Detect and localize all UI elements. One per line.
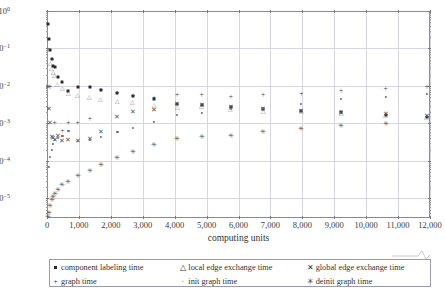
y-minor-tick — [46, 17, 48, 18]
y-minor-tick — [46, 31, 48, 32]
x-tick — [175, 216, 176, 219]
y-minor-tick — [429, 202, 431, 203]
legend-item: ·init graph time — [177, 277, 304, 286]
gridline-horizontal — [47, 161, 430, 162]
y-minor-tick — [46, 138, 48, 139]
y-minor-tick — [429, 210, 431, 211]
y-minor-tick — [429, 94, 431, 95]
y-minor-tick — [46, 37, 48, 38]
y-minor-tick — [429, 54, 431, 55]
y-minor-tick — [46, 132, 48, 133]
y-minor-tick — [46, 163, 48, 164]
y-minor-tick — [46, 75, 48, 76]
y-minor-tick — [429, 181, 431, 182]
y-minor-tick — [429, 57, 431, 58]
y-minor-tick — [46, 57, 48, 58]
y-minor-tick — [429, 106, 431, 107]
legend-row: component labeling time△local edge excha… — [50, 260, 430, 274]
y-minor-tick — [429, 132, 431, 133]
gridline-horizontal — [47, 86, 430, 87]
y-minor-tick — [46, 187, 48, 188]
y-minor-tick — [46, 200, 48, 201]
y-minor-tick — [429, 52, 431, 53]
gridline-horizontal — [47, 48, 430, 49]
y-minor-tick — [46, 129, 48, 130]
legend-item: ✳deinit graph time — [305, 277, 430, 286]
y-minor-tick — [429, 90, 431, 91]
y-minor-tick — [429, 127, 431, 128]
x-tick-label: 2,000 — [101, 220, 120, 230]
x-tick — [143, 10, 144, 13]
y-minor-tick — [429, 150, 431, 151]
x-tick — [270, 10, 271, 13]
y-minor-tick — [46, 19, 48, 20]
x-axis-title: computing units — [47, 233, 430, 243]
gridline-vertical — [239, 11, 240, 218]
y-minor-tick — [46, 52, 48, 53]
y-minor-tick — [46, 54, 48, 55]
y-minor-tick — [429, 17, 431, 18]
legend-label: local edge exchange time — [188, 263, 272, 272]
y-tick-label: 10−4 — [0, 155, 10, 166]
legend-label: deinit graph time — [316, 277, 373, 286]
y-minor-tick — [429, 143, 431, 144]
y-minor-tick — [429, 213, 431, 214]
y-minor-tick — [429, 101, 431, 102]
y-minor-tick — [429, 129, 431, 130]
gridline-vertical — [175, 11, 176, 218]
y-minor-tick — [429, 204, 431, 205]
gridline-vertical — [270, 11, 271, 218]
y-minor-tick — [46, 88, 48, 89]
y-tick-label: 10−3 — [0, 118, 10, 129]
y-minor-tick — [46, 176, 48, 177]
y-minor-tick — [46, 60, 48, 61]
y-tick-label: 10−2 — [0, 81, 10, 92]
y-minor-tick — [429, 97, 431, 98]
x-tick — [79, 216, 80, 219]
x-tick — [47, 216, 48, 219]
figure: △△△△△△△△△△△△△△△△△△△△△✕✕✕✕✕✕✕✕✕✕✕✕✕✕✕✕✕✕✕… — [0, 0, 445, 290]
y-minor-tick — [429, 165, 431, 166]
legend-marker-square-icon — [50, 263, 61, 272]
y-minor-tick — [429, 50, 431, 51]
x-tick-label: 11,000 — [387, 220, 410, 230]
y-minor-tick — [429, 60, 431, 61]
y-minor-tick — [429, 13, 431, 14]
legend: component labeling time△local edge excha… — [49, 259, 431, 287]
y-minor-tick — [46, 63, 48, 64]
legend-marker-cross-icon: ✕ — [305, 263, 316, 272]
y-minor-tick — [46, 68, 48, 69]
x-tick — [398, 10, 399, 13]
x-tick-label: 12,000 — [418, 220, 441, 230]
y-minor-tick — [46, 172, 48, 173]
x-tick — [207, 10, 208, 13]
y-minor-tick — [429, 176, 431, 177]
x-tick — [175, 10, 176, 13]
y-minor-tick — [46, 127, 48, 128]
gridline-vertical — [334, 11, 335, 218]
legend-marker-star-icon: ✳ — [305, 277, 316, 286]
y-tick-label: 10−1 — [0, 43, 10, 54]
x-tick-label: 10,000 — [354, 220, 377, 230]
y-minor-tick — [46, 125, 48, 126]
y-minor-tick — [46, 135, 48, 136]
y-minor-tick — [429, 75, 431, 76]
legend-label: global edge exchange time — [316, 263, 405, 272]
gridline-horizontal — [47, 123, 430, 124]
y-minor-tick — [46, 101, 48, 102]
x-tick — [398, 216, 399, 219]
legend-label: init graph time — [188, 277, 237, 286]
y-minor-tick — [46, 90, 48, 91]
x-tick — [334, 216, 335, 219]
x-tick — [270, 216, 271, 219]
legend-label: graph time — [61, 277, 97, 286]
y-minor-tick — [46, 112, 48, 113]
legend-row: +graph time·init graph time✳deinit graph… — [50, 274, 430, 288]
x-tick-label: 6,000 — [229, 220, 248, 230]
x-tick-label: 4,000 — [165, 220, 184, 230]
gridline-vertical — [143, 11, 144, 218]
y-minor-tick — [46, 167, 48, 168]
y-minor-tick — [429, 169, 431, 170]
x-tick — [207, 216, 208, 219]
plot-area: △△△△△△△△△△△△△△△△△△△△△✕✕✕✕✕✕✕✕✕✕✕✕✕✕✕✕✕✕✕… — [47, 11, 430, 218]
